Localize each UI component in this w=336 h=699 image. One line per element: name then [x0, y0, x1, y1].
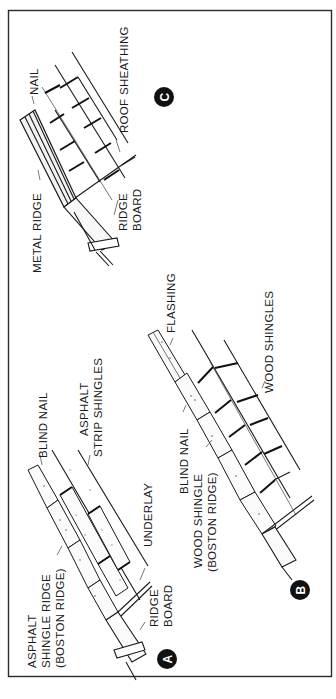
leader-metal-ridge [38, 170, 40, 180]
label-nail: NAIL [28, 68, 40, 95]
svg-text:A: A [161, 654, 175, 663]
badge-a: A [157, 649, 177, 669]
label-ridge-board-a-2: BOARD [162, 585, 174, 627]
panel-b-wood-shingle-ridge: FLASHING BLIND NAIL WOOD SHINGLE (BOSTON… [148, 273, 314, 600]
panel-a-asphalt-shingle-ridge: BLIND NAIL ASPHALT STRIP SHINGLES UNDERL… [26, 358, 177, 680]
label-asphalt-ridge-3: (BOSTON RIDGE) [54, 568, 66, 668]
label-strip-shingles-2: STRIP SHINGLES [92, 358, 104, 457]
label-wood-shingles: WOOD SHINGLES [263, 291, 275, 393]
label-underlay: UNDERLAY [142, 483, 154, 547]
ridge-board-a [106, 582, 152, 680]
svg-text:C: C [158, 92, 172, 101]
leader-nail [32, 96, 34, 104]
label-ridge-board-c-2: BOARD [131, 189, 143, 231]
label-ridge-board-c-1: RIDGE [117, 193, 129, 231]
leader-strip-shingles [88, 455, 90, 465]
metal-ridge-cap [20, 110, 76, 207]
label-wood-ridge-2: (BOSTON RIDGE) [206, 472, 218, 572]
label-blind-nail-a: BLIND NAIL [37, 392, 49, 458]
leader-blind-nail-b [183, 405, 186, 412]
flashing [148, 330, 185, 382]
label-ridge-board-a-1: RIDGE [148, 589, 160, 627]
label-asphalt-ridge-2: SHINGLE RIDGE [40, 574, 52, 668]
leader-asphalt-ridge [57, 546, 62, 555]
badge-b: B [290, 580, 310, 600]
leader-flashing [170, 338, 173, 345]
label-wood-ridge-1: WOOD SHINGLE [192, 474, 204, 568]
panel-c-metal-ridge: NAIL METAL RIDGE ROOF SHEATHING RIDGE BO… [20, 26, 174, 273]
badge-c: C [154, 87, 174, 107]
label-strip-shingles-1: ASPHALT [78, 382, 90, 436]
leader-roof-sheathing [116, 140, 120, 152]
label-blind-nail-b: BLIND NAIL [178, 428, 190, 494]
roof-ridge-diagram: NAIL METAL RIDGE ROOF SHEATHING RIDGE BO… [0, 0, 336, 699]
label-asphalt-ridge-1: ASPHALT [26, 614, 38, 668]
svg-text:B: B [294, 585, 308, 594]
ridge-board-b [262, 496, 314, 580]
label-roof-sheathing: ROOF SHEATHING [118, 26, 130, 133]
label-metal-ridge: METAL RIDGE [31, 193, 43, 273]
leader-underlay [140, 568, 145, 580]
label-flashing: FLASHING [165, 273, 177, 333]
leader-ridge-board-a [140, 622, 145, 630]
